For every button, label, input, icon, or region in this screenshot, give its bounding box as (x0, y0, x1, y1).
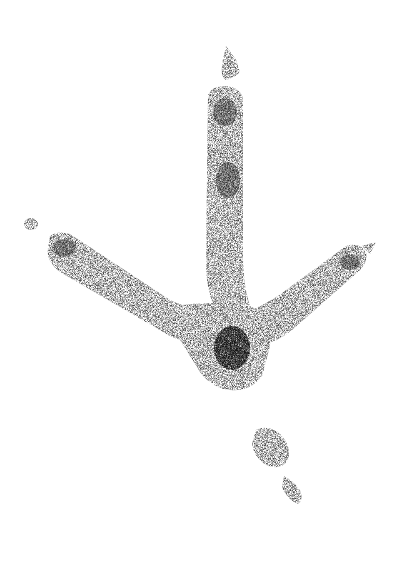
left-claw (24, 218, 38, 230)
bird-track-illustration (0, 0, 401, 578)
middle-toe-pad-1 (213, 98, 237, 126)
hind-toe (252, 428, 289, 467)
left-toe-pad (52, 239, 76, 257)
middle-claw (222, 46, 241, 80)
right-toe-pad (340, 254, 360, 270)
hind-claw (282, 476, 302, 504)
heel-pad-center (214, 326, 250, 370)
middle-toe-pad-2 (216, 162, 240, 198)
